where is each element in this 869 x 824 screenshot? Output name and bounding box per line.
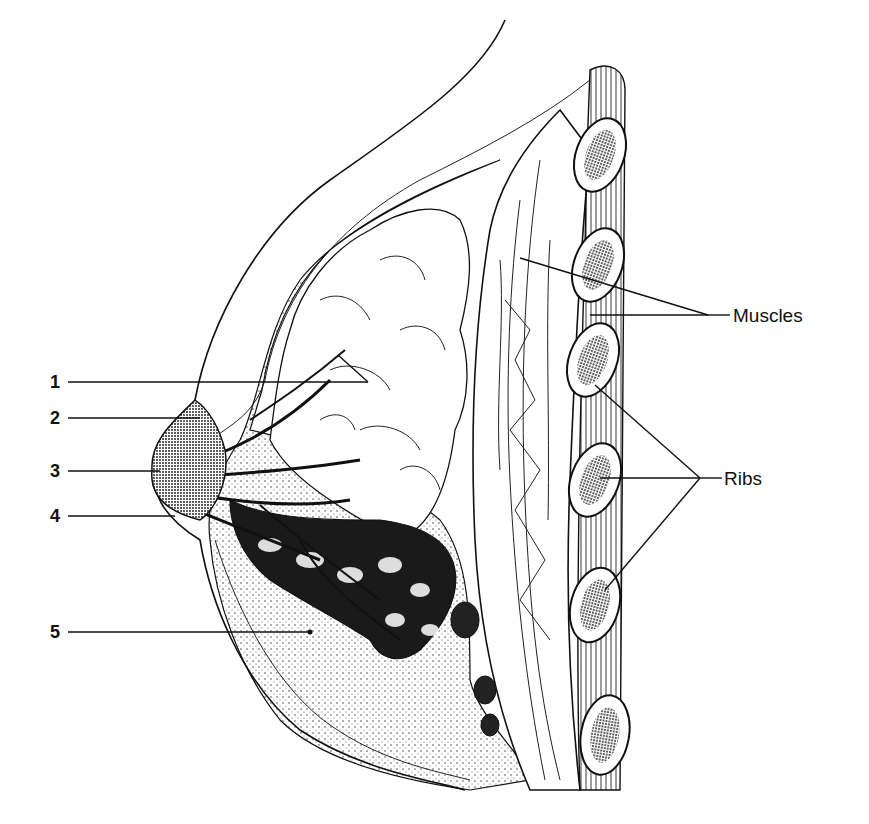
label-3: 3 [50,461,60,481]
label-muscles: Muscles [733,305,803,326]
label-ribs: Ribs [724,468,762,489]
label-5: 5 [50,622,60,642]
label-4: 4 [50,506,60,526]
breast-anatomy-diagram: 1 2 3 4 5 Muscles Ribs [0,0,869,824]
label-2: 2 [50,408,60,428]
label-1: 1 [50,372,60,392]
